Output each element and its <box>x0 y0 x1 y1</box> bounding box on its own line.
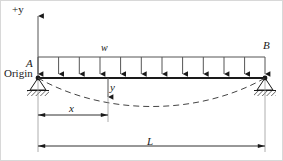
label-span-length: L <box>147 136 153 147</box>
beam-deflection-figure: +y A Origin w B y x L <box>0 0 283 161</box>
distributed-load-group <box>38 57 265 74</box>
label-deflection-y: y <box>110 82 115 93</box>
label-plus-y-axis: +y <box>12 4 24 15</box>
label-distance-x: x <box>69 103 74 114</box>
label-distributed-load-w: w <box>101 43 108 53</box>
beam-diagram-svg <box>0 0 283 161</box>
label-origin: Origin <box>4 68 33 79</box>
label-point-b: B <box>263 40 270 51</box>
load-arrows <box>38 57 265 74</box>
